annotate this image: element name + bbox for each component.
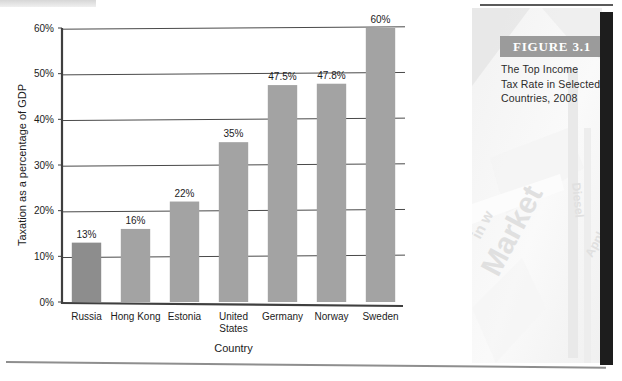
bar-value-label: 47.5% bbox=[268, 71, 296, 82]
y-tick-label: 20% bbox=[34, 205, 54, 216]
scan-artifact-right-bar bbox=[600, 12, 613, 365]
chart-y-axis: 0%10%20%30%40%50%60% bbox=[34, 23, 62, 308]
figure-number-label: FIGURE 3.1 bbox=[513, 39, 591, 55]
caption-line-1: The Top Income bbox=[501, 62, 609, 77]
x-category-label: Norway bbox=[315, 311, 349, 322]
bar bbox=[268, 85, 297, 302]
y-tick-label: 60% bbox=[34, 23, 54, 34]
x-category-label: Hong Kong bbox=[110, 311, 160, 322]
gridline bbox=[62, 118, 405, 120]
bar-value-label: 16% bbox=[125, 215, 145, 226]
x-category-label: Russia bbox=[71, 311, 102, 322]
bar-value-label: 60% bbox=[370, 14, 390, 25]
chart-x-axis: RussiaHong KongEstoniaUnitedStatesGerman… bbox=[61, 303, 403, 334]
bar-value-label: 22% bbox=[174, 188, 194, 199]
caption-line-3: Countries, 2008 bbox=[501, 91, 609, 106]
x-category-label: Sweden bbox=[362, 311, 398, 322]
x-category-label: United bbox=[219, 311, 248, 322]
x-category-label: Germany bbox=[262, 311, 303, 322]
figure-page: Market in w Diesel Appl FIGURE 3.1 The T… bbox=[0, 0, 622, 381]
bar-chart: 13%16%22%35%47.5%47.8%60% 0%10%20%30%40%… bbox=[0, 0, 470, 360]
bar-value-label: 47.8% bbox=[317, 70, 345, 81]
bar bbox=[317, 84, 346, 302]
bar-value-label: 13% bbox=[76, 229, 96, 240]
x-axis-line bbox=[61, 303, 403, 306]
y-tick-label: 30% bbox=[34, 160, 54, 171]
scan-rule-top-right bbox=[480, 4, 613, 6]
bar bbox=[72, 243, 101, 302]
y-tick-label: 50% bbox=[34, 68, 54, 79]
bar bbox=[366, 28, 395, 302]
y-axis-title: Taxation as a percentage of GDP bbox=[16, 84, 28, 246]
figure-number-banner: FIGURE 3.1 bbox=[500, 36, 604, 57]
y-tick-label: 40% bbox=[34, 114, 54, 125]
chart-bars bbox=[72, 28, 395, 302]
y-tick-label: 10% bbox=[34, 251, 54, 262]
gridline bbox=[62, 27, 405, 29]
x-category-label: States bbox=[219, 323, 247, 334]
caption-line-2: Tax Rate in Selected bbox=[501, 77, 609, 92]
scan-artifact-right-edge bbox=[613, 0, 622, 381]
bar bbox=[219, 142, 248, 302]
bar bbox=[170, 202, 199, 302]
bar bbox=[121, 229, 150, 302]
y-tick-label: 0% bbox=[40, 297, 55, 308]
figure-caption: The Top Income Tax Rate in Selected Coun… bbox=[501, 62, 609, 106]
x-axis-title: Country bbox=[214, 342, 253, 354]
bar-value-label: 35% bbox=[223, 128, 243, 139]
gridline bbox=[62, 72, 405, 74]
x-category-label: Estonia bbox=[168, 311, 202, 322]
